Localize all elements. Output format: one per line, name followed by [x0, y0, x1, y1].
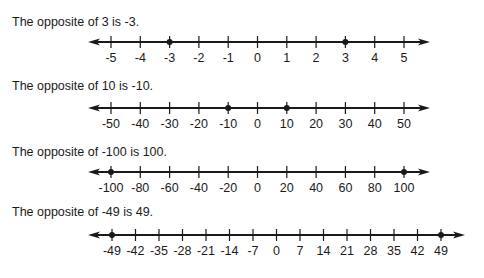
- tick-label: -14: [220, 244, 238, 258]
- tick-label: 14: [317, 244, 331, 258]
- tick-label: 28: [364, 244, 378, 258]
- tick-label: -28: [173, 244, 191, 258]
- tick-label: -49: [103, 244, 121, 258]
- number-line-4: -49-42-35-28-21-14-707142128354249: [0, 0, 484, 278]
- point-marker: [438, 232, 444, 238]
- tick-label: -21: [197, 244, 215, 258]
- tick-label: 35: [387, 244, 401, 258]
- tick-label: 49: [434, 244, 448, 258]
- tick-label: -35: [150, 244, 168, 258]
- point-marker: [109, 232, 115, 238]
- tick-label: 42: [411, 244, 425, 258]
- tick-label: -7: [247, 244, 258, 258]
- tick-label: 21: [340, 244, 354, 258]
- tick-label: 7: [297, 244, 304, 258]
- tick-label: -42: [126, 244, 144, 258]
- tick-label: 0: [273, 244, 280, 258]
